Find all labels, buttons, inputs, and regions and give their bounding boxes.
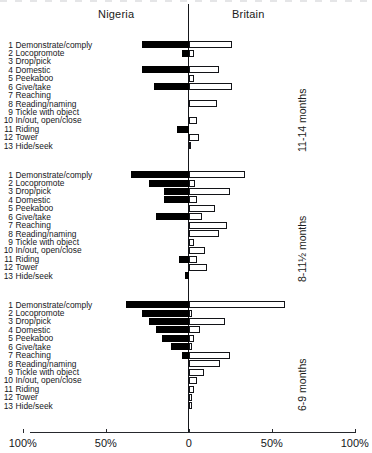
bar-row bbox=[0, 255, 372, 263]
bar-britain bbox=[189, 247, 206, 254]
bar-row bbox=[0, 213, 372, 221]
bar-row bbox=[0, 66, 372, 74]
axis-tick bbox=[23, 429, 24, 434]
bar-nigeria bbox=[126, 301, 189, 308]
bar-row bbox=[0, 377, 372, 385]
bar-britain bbox=[189, 100, 217, 107]
bar-nigeria bbox=[182, 352, 189, 359]
bar-nigeria bbox=[164, 196, 189, 203]
bar-row bbox=[0, 309, 372, 317]
bar-britain bbox=[189, 377, 197, 384]
bar-row bbox=[0, 57, 372, 65]
bar-britain bbox=[189, 230, 219, 237]
bar-britain bbox=[189, 117, 197, 124]
bar-row bbox=[0, 117, 372, 125]
axis-tick bbox=[189, 429, 190, 434]
bar-britain bbox=[189, 188, 231, 195]
bar-row bbox=[0, 204, 372, 212]
country-header-britain: Britain bbox=[232, 8, 265, 20]
bar-row bbox=[0, 334, 372, 342]
bar-row bbox=[0, 179, 372, 187]
chart-panel: 1Demonstrate/comply2Locopromote3Drop/pic… bbox=[0, 41, 372, 151]
bar-row bbox=[0, 74, 372, 82]
bar-britain bbox=[189, 41, 232, 48]
bar-row bbox=[0, 247, 372, 255]
bar-row bbox=[0, 385, 372, 393]
bar-nigeria bbox=[142, 66, 188, 73]
bar-row bbox=[0, 171, 372, 179]
bar-britain bbox=[189, 66, 219, 73]
bar-britain bbox=[189, 326, 201, 333]
axis-tick bbox=[272, 429, 273, 434]
country-header-nigeria: Nigeria bbox=[98, 8, 134, 20]
bar-britain bbox=[189, 301, 285, 308]
bar-row bbox=[0, 108, 372, 116]
bar-nigeria bbox=[162, 335, 189, 342]
axis-tick-label: 100% bbox=[9, 437, 37, 449]
scan-artifact-strip bbox=[0, 0, 372, 2]
bar-britain bbox=[189, 335, 194, 342]
bar-row bbox=[0, 133, 372, 141]
bar-row bbox=[0, 393, 372, 401]
bar-row bbox=[0, 263, 372, 271]
chart-panel: 1Demonstrate/comply2Locopromote3Drop/pic… bbox=[0, 171, 372, 281]
bar-row bbox=[0, 272, 372, 280]
bar-row bbox=[0, 49, 372, 57]
age-band-caption: 6-9 months bbox=[296, 358, 308, 411]
axis-tick-label: 50% bbox=[95, 437, 117, 449]
bar-britain bbox=[189, 369, 204, 376]
bar-row bbox=[0, 100, 372, 108]
bar-nigeria bbox=[142, 310, 188, 317]
bar-row bbox=[0, 360, 372, 368]
bar-nigeria bbox=[182, 50, 189, 57]
bar-row bbox=[0, 343, 372, 351]
bar-row bbox=[0, 351, 372, 359]
bar-row bbox=[0, 326, 372, 334]
axis-tick-label: 0 bbox=[186, 437, 192, 449]
bar-nigeria bbox=[171, 343, 189, 350]
chart-panel: 1Demonstrate/comply2Locopromote3Drop/pic… bbox=[0, 301, 372, 411]
bar-britain bbox=[189, 50, 194, 57]
bar-britain bbox=[189, 264, 207, 271]
bar-britain bbox=[189, 213, 202, 220]
bar-nigeria bbox=[177, 126, 189, 133]
bar-britain bbox=[189, 171, 245, 178]
bar-britain bbox=[189, 318, 226, 325]
bar-row bbox=[0, 91, 372, 99]
bar-row bbox=[0, 238, 372, 246]
bar-nigeria bbox=[149, 318, 189, 325]
axis-tick bbox=[106, 429, 107, 434]
bar-britain bbox=[189, 75, 194, 82]
bar-nigeria bbox=[164, 188, 189, 195]
bar-britain bbox=[189, 196, 197, 203]
bar-britain bbox=[189, 239, 194, 246]
bar-britain bbox=[189, 142, 191, 149]
bar-britain bbox=[189, 352, 231, 359]
bar-britain bbox=[189, 386, 194, 393]
bar-row bbox=[0, 125, 372, 133]
bar-row bbox=[0, 317, 372, 325]
bar-britain bbox=[189, 222, 227, 229]
bar-row bbox=[0, 41, 372, 49]
axis-tick-label: 50% bbox=[261, 437, 283, 449]
bar-row bbox=[0, 368, 372, 376]
age-band-caption: 8-11½ months bbox=[296, 216, 308, 282]
bar-britain bbox=[189, 205, 216, 212]
bar-nigeria bbox=[142, 41, 188, 48]
bar-britain bbox=[189, 360, 221, 367]
bar-nigeria bbox=[156, 326, 189, 333]
bar-nigeria bbox=[185, 272, 188, 279]
bar-row bbox=[0, 142, 372, 150]
bar-nigeria bbox=[149, 180, 189, 187]
bar-row bbox=[0, 221, 372, 229]
bar-britain bbox=[189, 256, 197, 263]
bar-britain bbox=[189, 83, 232, 90]
bar-row bbox=[0, 187, 372, 195]
bar-britain bbox=[189, 310, 192, 317]
age-band-caption: 11-14 months bbox=[296, 89, 308, 152]
bar-nigeria bbox=[179, 256, 189, 263]
bar-nigeria bbox=[156, 213, 189, 220]
bar-britain bbox=[189, 402, 192, 409]
bar-britain bbox=[189, 394, 192, 401]
axis-tick-label: 100% bbox=[341, 437, 369, 449]
